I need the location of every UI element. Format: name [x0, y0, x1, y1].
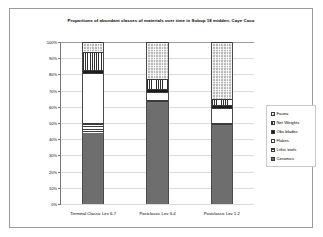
legend-item-flakes[interactable]: Flakes — [269, 136, 313, 145]
y-axis-tick — [58, 91, 61, 92]
bar-segment-fauna[interactable] — [212, 42, 232, 99]
bar-stack — [211, 42, 233, 204]
y-axis-tick-label: 20% — [49, 169, 57, 174]
legend-item-label: Fauna — [277, 111, 289, 116]
y-axis-tick-label: 10% — [49, 185, 57, 190]
bar-segment-ceramics[interactable] — [147, 102, 167, 204]
chart-legend: FaunaNet WeightsObs bladesFlakesLithic t… — [266, 105, 316, 167]
legend-item-lithic-tools[interactable]: Lithic tools — [269, 145, 313, 154]
y-axis-tick — [58, 155, 61, 156]
bar-stack — [146, 42, 168, 204]
y-axis-tick — [58, 188, 61, 189]
y-axis-tick-label: 50% — [49, 121, 57, 126]
y-axis-tick-label: 40% — [49, 137, 57, 142]
legend-item-obs-blades[interactable]: Obs blades — [269, 127, 313, 136]
y-axis-tick — [58, 204, 61, 205]
legend-swatch-icon — [271, 139, 275, 143]
x-axis-tick-label: Terminal Classic Lev 6-7 — [70, 211, 116, 216]
legend-swatch-icon — [271, 121, 275, 125]
legend-swatch-icon — [271, 157, 275, 161]
bar-segment-flakes[interactable] — [147, 92, 167, 100]
bar-segment-net-weights[interactable] — [83, 52, 103, 70]
y-axis-tick — [58, 42, 61, 43]
x-axis-tick-label: Postclassic Lev 1-2 — [204, 211, 240, 216]
x-axis-tick-label: Postclassic Lev 3-4 — [139, 211, 175, 216]
legend-swatch-icon — [271, 112, 275, 116]
chart-frame: Proportions of abundant classes of mater… — [9, 8, 313, 228]
y-axis-tick — [58, 139, 61, 140]
y-axis-tick — [58, 107, 61, 108]
bar-segment-ceramics[interactable] — [83, 133, 103, 204]
gridline — [61, 204, 254, 205]
y-axis-tick — [58, 74, 61, 75]
legend-item-label: Lithic tools — [277, 147, 297, 152]
y-axis-tick — [58, 123, 61, 124]
bar-column[interactable]: Postclassic Lev 1-2 — [211, 42, 233, 204]
plot-area: 100%90%80%70%60%50%40%30%20%10%0% Termin… — [60, 42, 254, 205]
legend-swatch-icon — [271, 148, 275, 152]
y-axis-tick — [58, 58, 61, 59]
bar-column[interactable]: Terminal Classic Lev 6-7 — [82, 42, 104, 204]
legend-item-label: Net Weights — [277, 120, 300, 125]
bar-segment-fauna[interactable] — [83, 42, 103, 52]
y-axis-tick-label: 30% — [49, 153, 57, 158]
y-axis-tick-label: 0% — [51, 202, 57, 207]
legend-swatch-icon — [271, 130, 275, 134]
y-axis-tick-label: 80% — [49, 72, 57, 77]
bar-segment-ceramics[interactable] — [212, 125, 232, 204]
legend-item-fauna[interactable]: Fauna — [269, 109, 313, 118]
legend-item-label: Flakes — [277, 138, 289, 143]
bar-segment-lithic-tools[interactable] — [83, 123, 103, 133]
bar-stack — [82, 42, 104, 204]
y-axis-tick-label: 70% — [49, 88, 57, 93]
legend-item-ceramics[interactable]: Ceramics — [269, 154, 313, 163]
bar-segment-flakes[interactable] — [83, 73, 103, 123]
y-axis-tick-label: 90% — [49, 56, 57, 61]
legend-item-label: Obs blades — [277, 129, 298, 134]
y-axis-tick-label: 60% — [49, 104, 57, 109]
legend-item-label: Ceramics — [277, 156, 295, 161]
bar-segment-flakes[interactable] — [212, 108, 232, 123]
bar-column[interactable]: Postclassic Lev 3-4 — [146, 42, 168, 204]
y-axis-tick-label: 100% — [47, 40, 57, 45]
chart-title: Proportions of abundant classes of mater… — [10, 18, 312, 24]
legend-item-net-weights[interactable]: Net Weights — [269, 118, 313, 127]
bar-segment-fauna[interactable] — [147, 42, 167, 79]
y-axis-tick — [58, 172, 61, 173]
bar-segment-net-weights[interactable] — [147, 79, 167, 89]
